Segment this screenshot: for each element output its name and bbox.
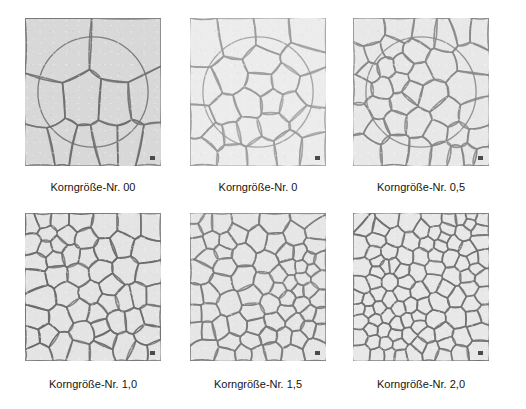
- scale-marker-icon: [478, 351, 483, 355]
- panel-cell-panel-00: Korngröße-Nr. 00: [25, 18, 161, 194]
- scale-marker-icon: [478, 156, 483, 160]
- panel-cell-panel-05: Korngröße-Nr. 0,5: [353, 18, 489, 194]
- panel-cell-panel-20: Korngröße-Nr. 2,0: [353, 213, 489, 391]
- figure-sheet: Korngröße-Nr. 00Korngröße-Nr. 0Korngröße…: [0, 0, 526, 409]
- panel-caption-panel-20: Korngröße-Nr. 2,0: [353, 378, 489, 391]
- scale-marker-icon: [315, 156, 320, 160]
- panel-caption-panel-05: Korngröße-Nr. 0,5: [353, 181, 489, 194]
- scale-marker-icon: [150, 156, 155, 160]
- panel-cell-panel-15: Korngröße-Nr. 1,5: [190, 213, 326, 391]
- panel-cell-panel-0: Korngröße-Nr. 0: [190, 18, 326, 194]
- panel-cell-panel-10: Korngröße-Nr. 1,0: [25, 213, 161, 391]
- micrograph-panel-05: [353, 18, 489, 166]
- micrograph-panel-15: [190, 213, 326, 361]
- panel-grid: Korngröße-Nr. 00Korngröße-Nr. 0Korngröße…: [0, 0, 526, 409]
- panel-caption-panel-0: Korngröße-Nr. 0: [190, 181, 326, 194]
- panel-caption-panel-15: Korngröße-Nr. 1,5: [190, 378, 326, 391]
- micrograph-panel-10: [25, 213, 161, 361]
- scale-marker-icon: [150, 351, 155, 355]
- micrograph-panel-0: [190, 18, 326, 166]
- micrograph-panel-20: [353, 213, 489, 361]
- panel-caption-panel-10: Korngröße-Nr. 1,0: [25, 378, 161, 391]
- micrograph-panel-00: [25, 18, 161, 166]
- panel-caption-panel-00: Korngröße-Nr. 00: [25, 181, 161, 194]
- scale-marker-icon: [315, 351, 320, 355]
